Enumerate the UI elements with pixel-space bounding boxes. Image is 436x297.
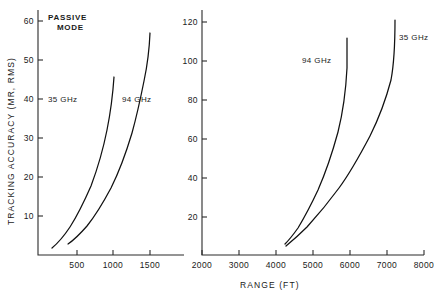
left-curve-94ghz (68, 33, 150, 244)
right-label-94ghz: 94 GHz (302, 56, 332, 65)
right-ytick-20: 20 (188, 212, 198, 222)
right-xtick-4000: 4000 (266, 260, 287, 270)
right-ytick-60: 60 (188, 134, 198, 144)
right-ytick-40: 40 (188, 173, 198, 183)
passive-mode-label-line2: MODE (57, 23, 84, 32)
right-xtick-7000: 7000 (377, 260, 398, 270)
left-xtick-500: 500 (69, 260, 84, 270)
x-axis-title: RANGE (FT) (240, 280, 300, 290)
right-ytick-100: 100 (183, 56, 198, 66)
right-y-ticks (202, 22, 207, 217)
left-y-ticks (38, 21, 43, 216)
right-ytick-80: 80 (188, 95, 198, 105)
passive-mode-label-line1: PASSIVE (48, 13, 87, 22)
left-ytick-30: 30 (24, 133, 34, 143)
left-xtick-1000: 1000 (103, 260, 124, 270)
left-ytick-40: 40 (24, 94, 34, 104)
left-ytick-50: 50 (24, 55, 34, 65)
left-panel: 60 50 40 30 20 10 500 1000 1500 TRACKING… (6, 10, 184, 270)
right-curve-94ghz (285, 38, 347, 244)
right-curve-35ghz (286, 20, 395, 246)
left-axis-lines (38, 10, 184, 255)
right-ytick-120: 120 (183, 17, 198, 27)
figure-container: 60 50 40 30 20 10 500 1000 1500 TRACKING… (0, 0, 436, 297)
right-panel: 120 100 80 60 40 20 2000 3000 4000 5000 … (183, 10, 435, 290)
left-ytick-10: 10 (24, 211, 34, 221)
left-label-35ghz: 35 GHz (48, 95, 78, 104)
y-axis-title: TRACKING ACCURACY (MR, RMS) (6, 57, 16, 225)
right-xtick-6000: 6000 (340, 260, 361, 270)
right-xtick-2000: 2000 (192, 260, 213, 270)
left-x-ticks (77, 250, 150, 255)
right-xtick-5000: 5000 (303, 260, 324, 270)
left-label-94ghz: 94 GHz (122, 95, 152, 104)
right-x-ticks (202, 250, 424, 255)
left-ytick-60: 60 (24, 16, 34, 26)
right-xtick-3000: 3000 (229, 260, 250, 270)
dual-panel-line-chart: 60 50 40 30 20 10 500 1000 1500 TRACKING… (0, 0, 436, 297)
left-xtick-1500: 1500 (140, 260, 161, 270)
left-ytick-20: 20 (24, 172, 34, 182)
right-axis-lines (202, 10, 424, 255)
right-label-35ghz: 35 GHz (399, 33, 429, 42)
right-xtick-8000: 8000 (414, 260, 435, 270)
